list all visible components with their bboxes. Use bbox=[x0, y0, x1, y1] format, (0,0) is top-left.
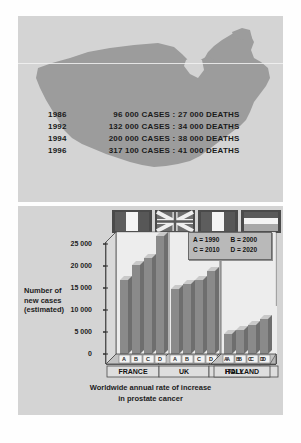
chart-legend: A = 1990 B = 2000 C = 2010 D = 2020 bbox=[188, 232, 272, 260]
y-axis-label-line3: (estimated) bbox=[24, 305, 90, 315]
bar-label-france-c: C bbox=[144, 356, 152, 362]
bar-label-holland-b: B bbox=[236, 356, 244, 362]
bar-label-uk-b: B bbox=[183, 356, 191, 362]
stat-cases: 96 000 CASES bbox=[82, 109, 170, 121]
legend-item-a: A = 1990 bbox=[193, 235, 231, 245]
bar-label-france-a: A bbox=[120, 356, 128, 362]
chart-caption: Worldwide annual rate of increase in pro… bbox=[18, 382, 283, 404]
chart-caption-line2: in prostate cancer bbox=[18, 393, 283, 404]
stat-separator: : bbox=[170, 133, 178, 145]
table-row: 1992 132 000 CASES : 34 000 DEATHS bbox=[48, 121, 240, 133]
bar-label-uk-a: A bbox=[171, 356, 179, 362]
legend-item-b: B = 2000 bbox=[231, 235, 269, 245]
stat-cases: 132 000 CASES bbox=[82, 121, 170, 133]
stat-year: 1992 bbox=[48, 121, 82, 133]
stat-deaths: 27 000 DEATHS bbox=[178, 109, 240, 121]
statistics-table: 1986 96 000 CASES : 27 000 DEATHS 1992 1… bbox=[48, 109, 283, 157]
stat-year: 1994 bbox=[48, 133, 82, 145]
y-axis-label: Number of new cases (estimated) bbox=[24, 286, 90, 315]
y-tick-25000: 25 000 bbox=[50, 240, 92, 247]
legend-item-d: D = 2020 bbox=[231, 245, 269, 255]
stat-deaths: 34 000 DEATHS bbox=[178, 121, 240, 133]
stat-year: 1986 bbox=[48, 109, 82, 121]
stat-separator: : bbox=[170, 121, 178, 133]
stat-cases: 317 100 CASES bbox=[82, 145, 170, 157]
y-tick-20000: 20 000 bbox=[50, 262, 92, 269]
country-label-france: FRANCE bbox=[107, 368, 159, 375]
stat-cases: 200 000 CASES bbox=[82, 133, 170, 145]
bar-label-holland-c: C bbox=[248, 356, 256, 362]
y-tick-0: 0 bbox=[50, 350, 92, 357]
chart-panel: 0 5 000 10 000 15 000 20 000 25 000 Numb… bbox=[18, 206, 283, 415]
bar-label-uk-c: C bbox=[195, 356, 203, 362]
table-row: 1994 200 000 CASES : 38 000 DEATHS bbox=[48, 133, 240, 145]
y-axis-label-line1: Number of bbox=[24, 286, 90, 296]
stat-separator: : bbox=[170, 145, 178, 157]
y-axis-label-line2: new cases bbox=[24, 296, 90, 306]
country-label-holland: HOLLAND bbox=[214, 368, 270, 375]
stat-year: 1996 bbox=[48, 145, 82, 157]
stat-deaths: 38 000 DEATHS bbox=[178, 133, 240, 145]
country-label-uk: UK bbox=[159, 368, 209, 375]
bar-label-holland-a: A bbox=[224, 356, 232, 362]
map-panel: 1986 96 000 CASES : 27 000 DEATHS 1992 1… bbox=[18, 16, 283, 202]
bar-label-france-d: D bbox=[156, 356, 164, 362]
chart-caption-line1: Worldwide annual rate of increase bbox=[18, 382, 283, 393]
bar-label-uk-d: D bbox=[207, 356, 215, 362]
stat-deaths: 41 000 DEATHS bbox=[178, 145, 240, 157]
bar-label-holland-d: D bbox=[260, 356, 268, 362]
stat-separator: : bbox=[170, 109, 178, 121]
infographic-page: 1986 96 000 CASES : 27 000 DEATHS 1992 1… bbox=[0, 0, 301, 443]
table-row: 1986 96 000 CASES : 27 000 DEATHS bbox=[48, 109, 240, 121]
map-highlight-line bbox=[18, 63, 283, 64]
table-row: 1996 317 100 CASES : 41 000 DEATHS bbox=[48, 145, 240, 157]
legend-item-c: C = 2010 bbox=[193, 245, 231, 255]
bar-label-france-b: B bbox=[132, 356, 140, 362]
y-tick-5000: 5 000 bbox=[50, 328, 92, 335]
